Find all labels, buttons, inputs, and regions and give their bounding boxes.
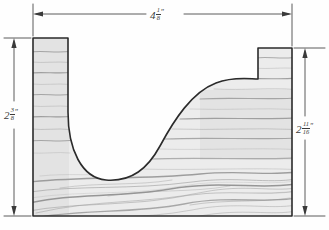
dimension-label-overall-width: 418″ [150, 6, 164, 22]
dimension-whole-number: 2 [4, 109, 10, 121]
fraction-denominator: 16 [302, 129, 310, 136]
arrowhead-left [33, 11, 43, 16]
dimension-fraction: 1116 [302, 121, 310, 135]
wood-profile-drawing [0, 0, 329, 230]
inch-mark: ″ [310, 122, 313, 131]
arrowhead-top [302, 48, 307, 58]
arrowhead-bottom [11, 206, 16, 216]
technical-drawing-canvas: 418″ 238″ 21116″ [0, 0, 329, 230]
dimension-label-right-height: 21116″ [296, 120, 313, 136]
inch-mark: ″ [15, 108, 18, 117]
dimension-label-left-height: 238″ [4, 106, 18, 122]
arrowhead-top [11, 38, 16, 48]
arrowhead-right [282, 11, 292, 16]
dimension-whole-number: 4 [150, 9, 156, 21]
arrowhead-bottom [302, 206, 307, 216]
dimension-left-height [4, 38, 31, 216]
inch-mark: ″ [161, 8, 164, 17]
dimension-whole-number: 2 [296, 123, 302, 135]
